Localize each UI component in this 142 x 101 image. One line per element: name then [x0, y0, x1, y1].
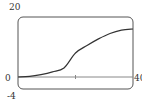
x-tick-label-right: 40	[134, 73, 142, 83]
series-line	[18, 29, 133, 77]
y-tick-label-bottom: -4	[7, 91, 16, 101]
y-tick-label-top: 20	[9, 2, 21, 12]
chart: 20 -4 0 40	[0, 0, 142, 101]
x-tick-label-left: 0	[5, 73, 11, 83]
